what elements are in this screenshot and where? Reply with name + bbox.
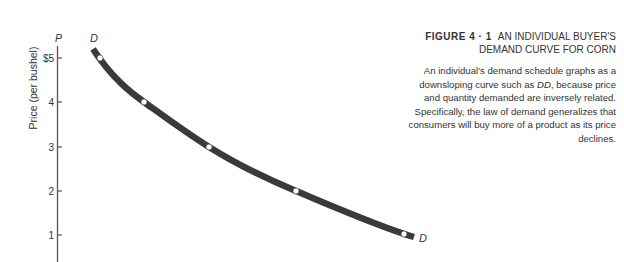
- figure-caption: An individual's demand schedule graphs a…: [406, 64, 616, 145]
- figure-number: FIGURE 4 · 1: [425, 31, 492, 42]
- figure-title-line1: AN INDIVIDUAL BUYER'S: [498, 31, 616, 42]
- data-points: [97, 55, 407, 237]
- tick-3: 3: [48, 142, 54, 153]
- tick-5: $5: [43, 53, 55, 64]
- figure-title-line2: DEMAND CURVE FOR CORN: [425, 43, 616, 56]
- tick-1: 1: [48, 230, 54, 241]
- demand-curve: [93, 49, 414, 237]
- y-axis-symbol: P: [55, 32, 62, 44]
- figure-title: FIGURE 4 · 1AN INDIVIDUAL BUYER'S DEMAND…: [425, 30, 616, 56]
- y-axis-label: Price (per bushel): [27, 38, 39, 138]
- point-price-4: [141, 99, 147, 105]
- curve-label-end: D: [419, 232, 427, 244]
- tick-4: 4: [48, 97, 54, 108]
- tick-2: 2: [48, 186, 54, 197]
- point-price-3: [206, 144, 212, 150]
- y-tick-labels: $5 4 3 2 1: [43, 53, 55, 241]
- point-price-1: [401, 231, 407, 237]
- point-price-5: [97, 55, 103, 61]
- caption-italic: DD: [537, 79, 551, 90]
- point-price-2: [293, 188, 299, 194]
- curve-label-start: D: [90, 32, 98, 44]
